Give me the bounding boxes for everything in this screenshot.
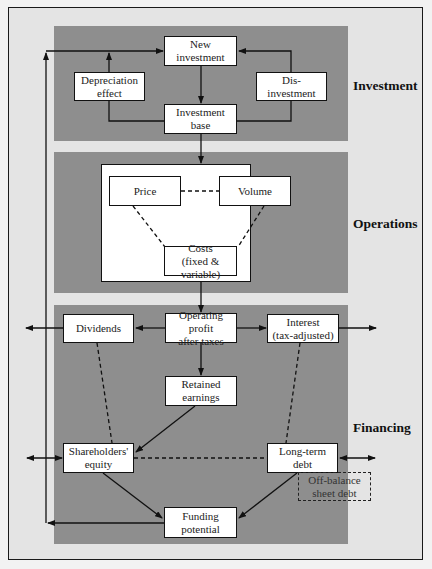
section-label-investment: Investment: [353, 78, 418, 94]
node-shareholders-equity: Shareholders' equity: [63, 443, 134, 473]
section-label-operations: Operations: [353, 216, 418, 232]
node-retained-earnings: Retained earnings: [165, 376, 237, 406]
node-costs: Costs (fixed & variable): [164, 246, 237, 276]
node-new-investment: New investment: [164, 36, 237, 66]
node-investment-base: Investment base: [164, 104, 237, 134]
node-off-balance-sheet-debt: Off-balance sheet debt: [298, 472, 371, 501]
node-interest: Interest (tax-adjusted): [267, 314, 339, 343]
node-operating-profit: Operating profit after taxes: [165, 313, 237, 343]
node-volume: Volume: [219, 176, 291, 206]
node-funding-potential: Funding potential: [164, 507, 237, 538]
node-disinvestment: Dis- investment: [256, 72, 327, 101]
node-long-term-debt: Long-term debt: [267, 443, 338, 473]
node-depreciation-effect: Depreciation effect: [74, 72, 145, 101]
section-label-financing: Financing: [353, 420, 411, 436]
node-price: Price: [109, 176, 181, 206]
node-dividends: Dividends: [63, 314, 134, 343]
